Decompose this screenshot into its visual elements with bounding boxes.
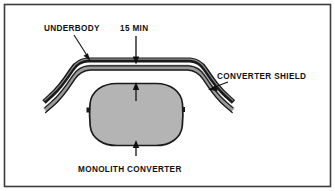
monolith-converter-label: MONOLITH CONVERTER (78, 165, 182, 174)
underbody-label: UNDERBODY (44, 24, 100, 33)
converter-shield-figure: UNDERBODY 15 MIN CONVERTER SHIELD MONOLI… (0, 0, 335, 191)
dimension-label: 15 MIN (120, 24, 149, 33)
converter-shield-label: CONVERTER SHIELD (217, 72, 306, 81)
diagram-canvas: UNDERBODY 15 MIN CONVERTER SHIELD MONOLI… (0, 0, 335, 191)
